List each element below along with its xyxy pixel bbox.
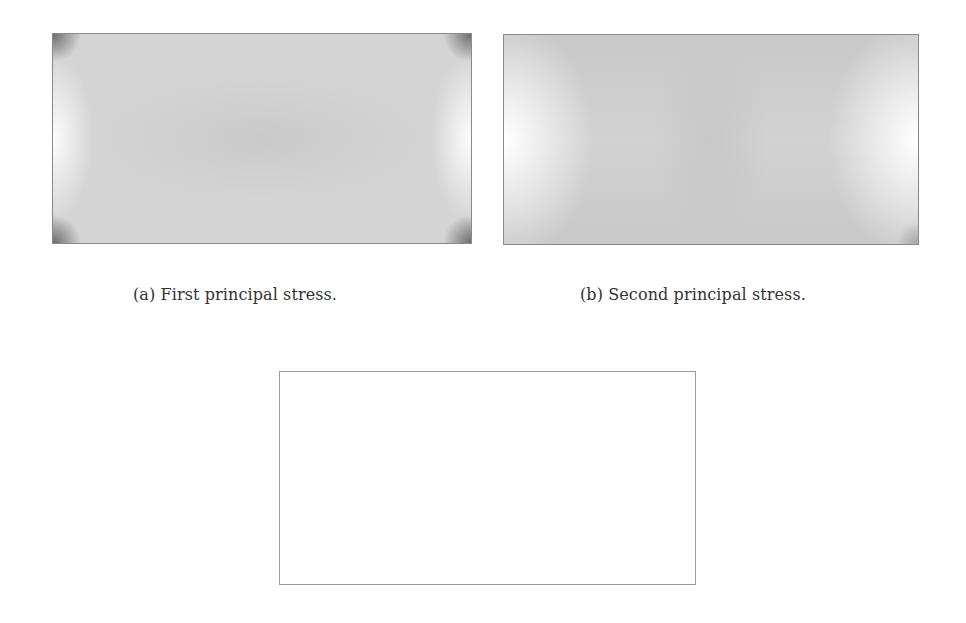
caption-first-principal-stress: (a) First principal stress. (133, 285, 337, 304)
third-stress-plot (279, 371, 696, 585)
second-principal-stress-plot (503, 34, 919, 245)
first-principal-stress-plot (52, 33, 472, 244)
caption-second-principal-stress: (b) Second principal stress. (580, 285, 806, 304)
